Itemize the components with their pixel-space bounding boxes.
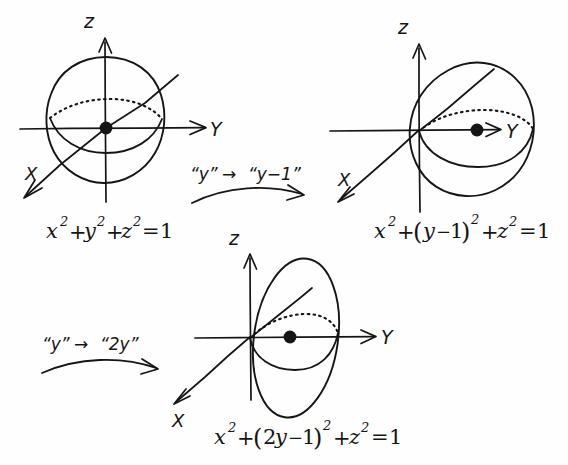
transform-scale-to: “2y”: [100, 334, 139, 354]
transform-scale-from: “y”: [42, 334, 70, 354]
notes-page: z Y X x 2 + y 2 + z 2 = 1: [0, 0, 568, 465]
transform-scale-arrow: →: [74, 334, 88, 354]
transform-scale: “y” → “2y”: [0, 0, 568, 465]
transform-scale-curved-arrow: [42, 359, 158, 374]
